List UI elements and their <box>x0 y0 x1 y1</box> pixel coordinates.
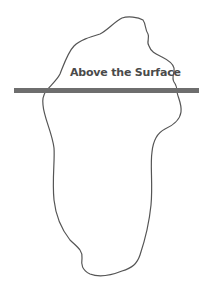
waterline-band <box>14 88 199 93</box>
iceberg-outline <box>43 17 181 276</box>
above-surface-label: Above the Surface <box>70 66 166 80</box>
iceberg-diagram: Above the Surface <box>0 0 209 293</box>
iceberg-graphic <box>0 0 209 293</box>
